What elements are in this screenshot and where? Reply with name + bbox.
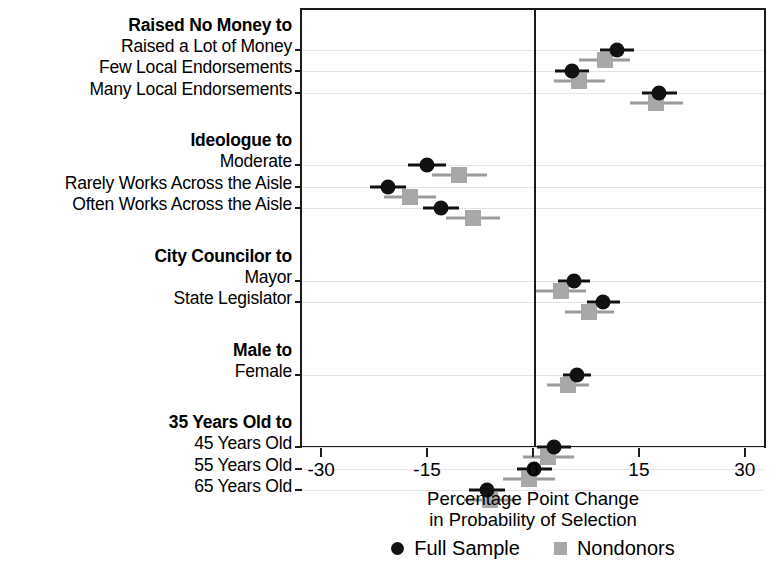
x-axis-tick-label: 15 [628,459,649,481]
row-label: 55 Years Old [194,456,292,475]
row-label: Often Works Across the Aisle [72,195,292,214]
marker-nondonors [465,210,481,226]
legend-entry-nondonors: Nondonors [554,537,675,560]
x-axis-tick-label: 30 [734,459,755,481]
marker-full-sample [596,295,611,310]
y-axis-tick [295,280,302,282]
group-header-label: Ideologue to [190,131,292,150]
x-axis-title-line2: in Probability of Selection [300,509,766,530]
x-axis-tick-label: -15 [413,459,440,481]
marker-nondonors [581,304,597,320]
y-axis-tick [295,164,302,166]
y-axis-tick [295,49,302,51]
y-axis-tick [295,186,302,188]
y-axis-tick [295,374,302,376]
zero-reference-line [534,10,536,446]
gridline [302,208,764,209]
y-axis-tick [295,446,302,448]
legend-label-full-sample: Full Sample [414,537,520,560]
x-axis-tick [532,448,534,457]
marker-full-sample [381,179,396,194]
y-axis-tick [295,301,302,303]
legend-square-marker-icon [554,542,567,555]
x-axis-tick [320,448,322,457]
gridline [302,50,764,51]
row-label: Moderate [220,152,292,171]
row-label: State Legislator [174,289,292,308]
x-axis-title: Percentage Point Change in Probability o… [300,488,766,530]
gridline [302,93,764,94]
y-axis-tick [295,207,302,209]
y-axis-tick [295,468,302,470]
row-label: 45 Years Old [194,434,292,453]
gridline [302,302,764,303]
x-axis-tick-label: 0 [528,459,539,481]
y-axis-tick [295,70,302,72]
marker-full-sample [419,158,434,173]
legend-entry-full-sample: Full Sample [391,537,520,560]
row-label: Mayor [244,268,292,287]
x-axis-tick-label: -30 [307,459,334,481]
marker-nondonors [451,167,467,183]
marker-nondonors [553,283,569,299]
gridline [302,375,764,376]
marker-full-sample [609,42,624,57]
row-label: Many Local Endorsements [89,80,292,99]
legend: Full Sample Nondonors [300,537,766,560]
x-axis-tick [744,448,746,457]
row-label: 65 Years Old [194,477,292,496]
marker-full-sample [652,85,667,100]
marker-full-sample [547,440,562,455]
marker-full-sample [564,64,579,79]
gridline [302,281,764,282]
group-header-label: City Councilor to [154,247,292,266]
x-axis-tick [426,448,428,457]
coefficient-plot-figure: Raised No Money toIdeologue toCity Counc… [0,0,780,573]
gridline [302,71,764,72]
plot-inner [302,10,764,446]
marker-full-sample [569,367,584,382]
x-axis-tick [638,448,640,457]
row-label: Raised a Lot of Money [121,37,292,56]
marker-full-sample [566,273,581,288]
legend-circle-marker-icon [391,542,404,555]
row-label: Female [235,362,292,381]
gridline [302,165,764,166]
x-axis-title-line1: Percentage Point Change [300,488,766,509]
legend-label-nondonors: Nondonors [577,537,675,560]
group-header-label: Raised No Money to [128,16,292,35]
plot-panel [300,8,766,448]
row-label: Few Local Endorsements [99,58,292,77]
row-label: Rarely Works Across the Aisle [65,174,292,193]
y-axis-tick [295,92,302,94]
group-header-label: Male to [233,341,292,360]
y-axis-label-column: Raised No Money toIdeologue toCity Counc… [0,0,296,440]
marker-full-sample [434,201,449,216]
group-header-label: 35 Years Old to [169,413,292,432]
marker-nondonors [402,189,418,205]
